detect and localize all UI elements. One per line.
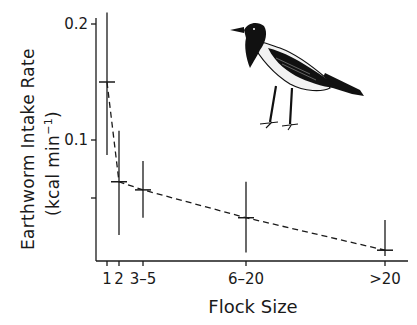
- x-tick-label: 3–5: [130, 270, 157, 288]
- x-tick-label: 1: [102, 270, 112, 288]
- y-tick-label: 0.2: [64, 15, 88, 33]
- y-axis-units-close: ): [43, 111, 63, 118]
- crow-illustration: [230, 23, 364, 130]
- y-axis-units-exponent: −1: [42, 118, 55, 135]
- x-tick-label: 2: [114, 270, 124, 288]
- y-axis-title-main: Earthworm Intake Rate: [18, 48, 38, 250]
- y-tick-label: 0.1: [64, 131, 88, 149]
- x-ticks: 123–56–20>20: [102, 261, 401, 288]
- x-axis-title: Flock Size: [208, 296, 297, 317]
- y-axis-units-text: (kcal min: [43, 135, 63, 216]
- y-axis-units: (kcal min−1): [42, 111, 63, 216]
- x-tick-label: 6–20: [228, 270, 264, 288]
- y-ticks: 0.20.1: [64, 15, 96, 198]
- x-tick-label: >20: [369, 270, 401, 288]
- y-axis-title: Earthworm Intake Rate: [18, 48, 38, 250]
